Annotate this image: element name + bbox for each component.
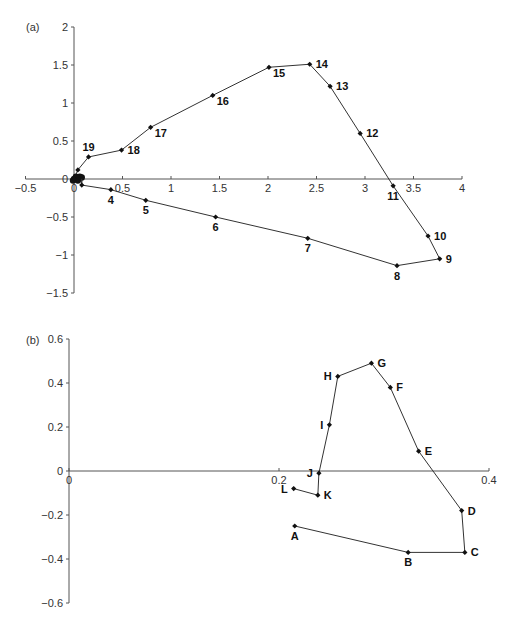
data-marker xyxy=(79,182,84,187)
point-label: D xyxy=(468,505,476,517)
data-marker xyxy=(437,256,442,261)
data-marker xyxy=(210,93,215,98)
data-marker xyxy=(358,131,363,136)
point-label: 10 xyxy=(434,230,446,242)
axes-b: 00.20.4−0.6−0.4−0.200.20.40.6 xyxy=(41,333,496,609)
y-tick-label: −0.4 xyxy=(41,553,63,565)
point-label: 5 xyxy=(143,204,149,216)
y-tick-label: −1.5 xyxy=(46,287,68,299)
point-label: 15 xyxy=(273,67,285,79)
y-tick-label: 1.5 xyxy=(53,59,68,71)
point-label: 16 xyxy=(217,95,229,107)
series-a: 45678910111213141516171819 xyxy=(70,58,452,281)
point-label: 17 xyxy=(155,127,167,139)
x-tick-label: 4 xyxy=(459,182,465,194)
data-marker xyxy=(108,187,113,192)
data-marker xyxy=(213,214,218,219)
data-marker xyxy=(335,374,340,379)
y-tick-label: −0.5 xyxy=(46,211,68,223)
point-label: 11 xyxy=(387,190,399,202)
data-marker xyxy=(292,523,297,528)
x-tick-label: 3 xyxy=(362,182,368,194)
chart-panel-a: (a) −0.500.511.522.533.54−1.5−1−0.500.51… xyxy=(15,21,465,299)
x-tick-label: 2.5 xyxy=(309,182,324,194)
x-tick-label: 1.5 xyxy=(212,182,227,194)
point-label: J xyxy=(307,467,313,479)
point-label: F xyxy=(396,381,403,393)
series-line xyxy=(74,64,440,265)
y-tick-label: 0.6 xyxy=(48,333,63,345)
point-label: 8 xyxy=(394,270,400,282)
point-label: 6 xyxy=(213,221,219,233)
data-marker xyxy=(394,263,399,268)
data-marker xyxy=(315,493,320,498)
figure: (a) −0.500.511.522.533.54−1.5−1−0.500.51… xyxy=(0,0,514,623)
data-marker xyxy=(462,550,467,555)
panel-label-a: (a) xyxy=(26,21,39,33)
point-label: 18 xyxy=(128,144,140,156)
point-label: 7 xyxy=(305,242,311,254)
point-label: 13 xyxy=(336,80,348,92)
chart-panel-b: (b) 00.20.4−0.6−0.4−0.200.20.40.6 ABCDEF… xyxy=(26,333,497,609)
data-marker xyxy=(143,198,148,203)
y-tick-label: 0 xyxy=(62,173,68,185)
y-tick-label: 0.4 xyxy=(48,377,63,389)
x-tick-label: 0.5 xyxy=(115,182,130,194)
x-tick-label: 1 xyxy=(168,182,174,194)
point-label: E xyxy=(425,445,432,457)
x-tick-label: 2 xyxy=(265,182,271,194)
y-tick-label: 2 xyxy=(62,21,68,33)
point-label: 19 xyxy=(82,141,94,153)
y-tick-label: 1 xyxy=(62,97,68,109)
x-tick-label: 0.4 xyxy=(481,474,496,486)
data-marker xyxy=(327,422,332,427)
series-b: ABCDEFGHIJKL xyxy=(281,357,479,568)
panel-label-b: (b) xyxy=(26,334,39,346)
data-marker xyxy=(266,65,271,70)
point-label: L xyxy=(281,483,288,495)
x-tick-label: 3.5 xyxy=(406,182,421,194)
x-tick-label: 0 xyxy=(71,182,77,194)
y-tick-label: 0.2 xyxy=(48,421,63,433)
axes-a: −0.500.511.522.533.54−1.5−1−0.500.511.52 xyxy=(15,21,465,299)
series-line xyxy=(294,363,465,552)
point-label: 4 xyxy=(108,194,115,206)
y-tick-label: −0.6 xyxy=(41,597,63,609)
data-marker xyxy=(406,550,411,555)
point-label: G xyxy=(377,357,386,369)
point-label: C xyxy=(471,546,479,558)
x-tick-label: 0 xyxy=(66,474,72,486)
data-marker xyxy=(291,486,296,491)
point-label: 12 xyxy=(366,127,378,139)
y-tick-label: 0.5 xyxy=(53,135,68,147)
point-label: 14 xyxy=(316,58,329,70)
point-label: I xyxy=(320,419,323,431)
data-marker xyxy=(305,236,310,241)
y-tick-label: −0.2 xyxy=(41,509,63,521)
point-label: 9 xyxy=(446,253,452,265)
y-tick-label: −1 xyxy=(55,249,68,261)
point-label: K xyxy=(324,489,332,501)
point-label: A xyxy=(291,530,299,542)
point-label: H xyxy=(324,370,332,382)
y-tick-label: 0 xyxy=(57,465,63,477)
x-tick-label: −0.5 xyxy=(15,182,37,194)
point-label: B xyxy=(404,556,412,568)
